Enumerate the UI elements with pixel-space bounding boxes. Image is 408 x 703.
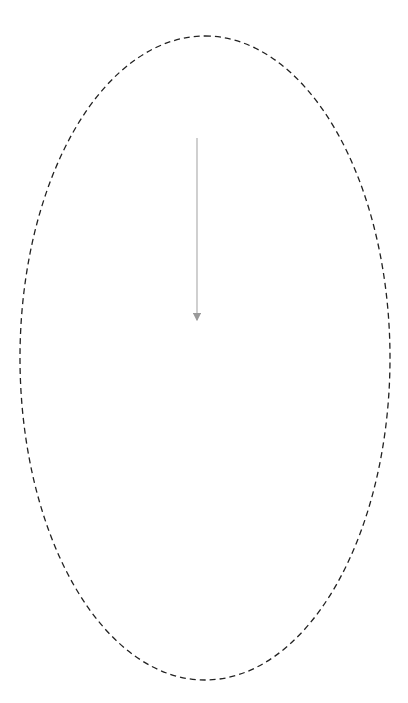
connector-layer [0,0,408,703]
diagram-canvas [0,0,408,703]
